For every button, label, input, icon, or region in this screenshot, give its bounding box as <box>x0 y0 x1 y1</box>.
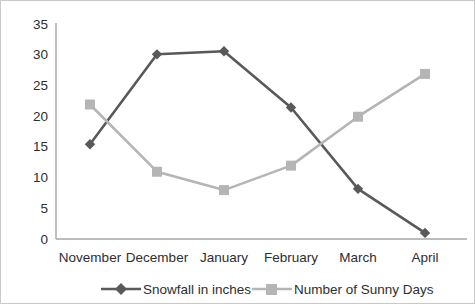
y-axis-tick-labels: 35 30 25 20 15 10 5 0 <box>33 17 48 247</box>
y-tick-label: 20 <box>33 109 48 124</box>
data-point-square[interactable] <box>85 99 95 109</box>
series-sunny-days <box>85 69 430 195</box>
y-tick-label: 25 <box>33 78 48 93</box>
y-tick-label: 30 <box>33 47 48 62</box>
x-tick-label: April <box>411 250 438 265</box>
y-tick-label: 0 <box>40 232 48 247</box>
chart-legend: Snowfall in inches Number of Sunny Days <box>101 282 434 297</box>
legend-label-sunny-days: Number of Sunny Days <box>294 282 434 297</box>
data-point-square[interactable] <box>420 69 430 79</box>
x-tick-label: March <box>339 250 377 265</box>
y-tick-label: 10 <box>33 170 48 185</box>
y-tick-label: 35 <box>33 17 48 32</box>
y-tick-label: 5 <box>40 201 48 216</box>
x-tick-label: December <box>126 250 189 265</box>
square-marker-icon <box>266 284 277 295</box>
x-axis-tick-labels: November December January February March… <box>59 250 439 265</box>
x-tick-label: January <box>200 250 248 265</box>
legend-item-snowfall[interactable]: Snowfall in inches <box>101 282 251 297</box>
x-tick-label: November <box>59 250 122 265</box>
data-point-square[interactable] <box>353 112 363 122</box>
series-line <box>90 51 425 233</box>
data-point-square[interactable] <box>286 161 296 171</box>
series-snowfall <box>85 46 430 238</box>
legend-label-snowfall: Snowfall in inches <box>143 282 251 297</box>
series-layer <box>85 46 430 238</box>
data-point-square[interactable] <box>152 167 162 177</box>
data-point-square[interactable] <box>219 185 229 195</box>
line-chart: 35 30 25 20 15 10 5 0 November December … <box>1 1 475 304</box>
legend-item-sunny-days[interactable]: Number of Sunny Days <box>252 282 434 297</box>
x-tick-label: February <box>264 250 318 265</box>
y-tick-label: 15 <box>33 139 48 154</box>
diamond-marker-icon <box>115 283 127 295</box>
series-line <box>90 74 425 190</box>
chart-container: 35 30 25 20 15 10 5 0 November December … <box>0 0 475 304</box>
